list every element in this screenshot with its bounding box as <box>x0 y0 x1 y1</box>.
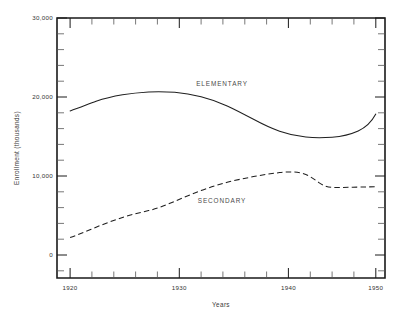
x-tick-label-1940: 1940 <box>281 284 296 291</box>
series-label-elementary: ELEMENTARY <box>196 80 248 87</box>
x-tick-label-1950: 1950 <box>368 284 383 291</box>
y-tick-label-20000: 20,000 <box>32 93 53 100</box>
y-tick-label-30000: 30,000 <box>32 14 53 21</box>
x-axis-title: Years <box>212 301 230 308</box>
x-tick-label-1920: 1920 <box>63 284 78 291</box>
x-tick-label-1930: 1930 <box>172 284 187 291</box>
y-tick-label-0: 0 <box>49 251 53 258</box>
enrollment-line-chart: 30,000 20,000 10,000 0 1920 1930 1940 19… <box>0 0 403 319</box>
y-tick-label-10000: 10,000 <box>32 172 53 179</box>
series-label-secondary: SECONDARY <box>198 197 246 204</box>
y-axis-title: Enrollment (thousands) <box>13 111 21 185</box>
